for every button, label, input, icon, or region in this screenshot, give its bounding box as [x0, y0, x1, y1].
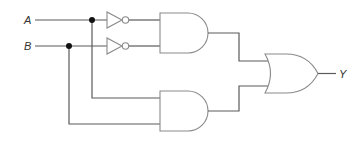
wire-and1-to-or: [208, 33, 270, 61]
junction-dot-a: [89, 17, 95, 23]
or-gate: [265, 54, 318, 93]
not-gate-b: [107, 38, 129, 54]
not-gate-a: [107, 12, 129, 28]
junction-dot-b: [66, 43, 72, 49]
wire-b-branch: [69, 46, 160, 124]
output-label-y: Y: [339, 68, 347, 80]
and-gate-1: [160, 13, 208, 53]
wire-and2-to-or: [208, 86, 270, 111]
logic-circuit-diagram: A B Y: [0, 0, 354, 150]
wire-a-branch: [92, 20, 160, 98]
and-gate-2: [160, 91, 208, 131]
input-label-a: A: [23, 14, 31, 26]
input-label-b: B: [24, 40, 31, 52]
